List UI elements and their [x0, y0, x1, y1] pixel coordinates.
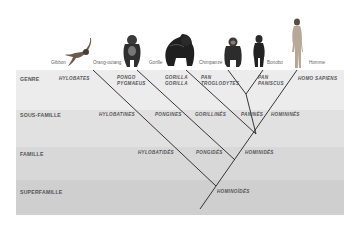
sous-famille-pongines: PONGINES — [155, 112, 182, 118]
genre-pan-paniscus-line2: PANISCUS — [258, 81, 284, 87]
branch-gibbon — [93, 70, 216, 186]
famille-pongides: PONGIDÉS — [196, 150, 223, 156]
famille-hylobatides: HYLOBATIDÉS — [138, 150, 174, 156]
genre-pan-paniscus: PAN PANISCUS — [258, 75, 284, 86]
gorilla-icon — [162, 32, 196, 68]
species-name-gorilla: Gorille — [149, 60, 162, 65]
bonobo-icon — [252, 34, 266, 68]
genre-gorilla-line2: GORILLA — [165, 81, 188, 87]
genre-hylobates: HYLOBATES — [59, 76, 90, 82]
orangutan-icon — [121, 34, 143, 68]
species-name-orangutan: Orang-outang — [93, 60, 121, 65]
sous-famille-hylobatines: HYLOBATINES — [99, 112, 135, 118]
gibbon-icon — [64, 36, 94, 68]
sous-famille-gorillines: GORILLINÉS — [195, 112, 226, 118]
genre-pongo: PONGO PYGMAEUS — [117, 75, 146, 86]
superfamille-hominoides: HOMINOÏDÉS — [217, 189, 250, 195]
species-name-chimpanzee: Chimpanzé — [199, 60, 222, 65]
genre-pan-troglodytes: PAN TROGLODYTES — [201, 75, 239, 86]
species-name-bonobo: Bonobo — [267, 60, 283, 65]
genre-pongo-line2: PYGMAEUS — [117, 81, 146, 87]
sous-famille-hominines: HOMININÉS — [271, 112, 300, 118]
chimpanzee-icon — [223, 36, 243, 68]
sous-famille-panines: PANINÉS — [241, 112, 263, 118]
human-icon — [290, 18, 304, 70]
genre-gorilla-line1: GORILLA — [165, 75, 188, 81]
genre-pan-troglodytes-line2: TROGLODYTES — [201, 81, 239, 87]
genre-homo-sapiens: HOMO SAPIENS — [298, 76, 337, 82]
genre-gorilla: GORILLA GORILLA — [165, 75, 188, 86]
species-name-human: Homme — [309, 60, 325, 65]
famille-hominides: HOMINIDÉS — [245, 150, 274, 156]
